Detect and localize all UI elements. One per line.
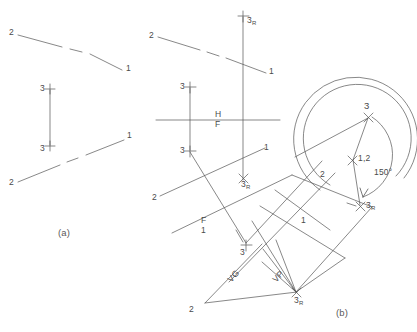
aux-line-2 xyxy=(246,161,322,243)
label-b-3-apex: 3 xyxy=(364,101,369,111)
marker-point-view-12 xyxy=(348,156,357,165)
marker-3R-arc xyxy=(356,202,365,211)
label-b-3-midleft: 3 xyxy=(180,146,185,155)
caption-a: (a) xyxy=(58,228,70,238)
label-angle-150: 150° xyxy=(374,168,392,177)
panel-b-vertical-projector xyxy=(238,11,249,180)
tick-3R xyxy=(347,203,356,206)
projection-box xyxy=(260,118,372,258)
label-point-view-12: 1,2 xyxy=(358,154,370,163)
panel-b-top-line xyxy=(158,37,266,73)
label-b-3R-arc: 3R xyxy=(366,201,375,210)
caption-b: (b) xyxy=(336,308,348,318)
panel-b-left-vertical xyxy=(185,82,196,157)
technical-drawing-figure: 2 1 3 3 2 1 (a) 3R 2 1 3 3 H F 1 2 3R F … xyxy=(0,0,417,332)
fold-line-F1 xyxy=(172,175,292,233)
panel-a-top-line xyxy=(18,35,122,70)
drawing-canvas xyxy=(0,0,417,332)
label-a-top-2: 2 xyxy=(9,28,14,37)
projector-3-to-3R xyxy=(190,152,246,243)
label-a-bottom-2: 2 xyxy=(9,178,14,187)
panel-a-vertical-line xyxy=(45,84,55,151)
label-b-aux-1: 1 xyxy=(301,216,306,225)
label-b-top-2: 2 xyxy=(149,31,154,40)
label-a-point-3-top: 3 xyxy=(40,84,45,93)
label-b-3R-bottom: 3R xyxy=(294,296,303,305)
label-a-point-3-bottom: 3 xyxy=(40,144,45,153)
label-a-bottom-1: 1 xyxy=(127,131,132,140)
label-b-bottom-2: 2 xyxy=(189,305,194,314)
label-b-3R-top: 3R xyxy=(247,16,256,25)
marker-3-apex xyxy=(364,113,373,122)
convergence-rays xyxy=(252,207,372,292)
label-b-3R-mid: 3R xyxy=(241,180,250,189)
fold-label-1: 1 xyxy=(201,226,206,235)
label-a-top-1: 1 xyxy=(126,64,131,73)
label-b-top-1: 1 xyxy=(269,67,274,76)
label-b-mid-1: 1 xyxy=(264,143,269,152)
label-b-3-lower: 3 xyxy=(240,248,245,257)
label-b-3-upper: 3 xyxy=(180,82,185,91)
fold-label-F2: F xyxy=(201,216,206,225)
label-b-aux-2: 2 xyxy=(320,170,325,179)
fold-label-H: H xyxy=(215,110,221,119)
fold-label-F: F xyxy=(215,120,220,129)
panel-a-bottom-line xyxy=(18,140,124,182)
label-b-mid-2: 2 xyxy=(152,193,157,202)
